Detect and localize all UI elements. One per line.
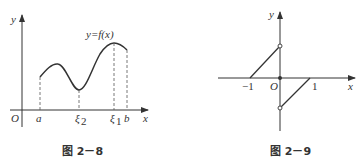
origin-label: O (270, 80, 278, 92)
x-axis-label: x (142, 112, 148, 124)
x-axis-label: x (347, 80, 353, 92)
tick-a: a (36, 112, 42, 124)
y-axis-label: y (268, 8, 274, 20)
open-point-upper (278, 44, 282, 48)
segment-left (250, 46, 280, 78)
tick-xi2-sub: 2 (81, 115, 87, 127)
tick-neg1: −1 (242, 80, 254, 92)
caption-2-9: 图 2－9 (270, 142, 311, 158)
dashed-guides (40, 43, 127, 110)
tick-b: b (124, 112, 130, 124)
origin-label: O (11, 112, 19, 124)
tick-1: 1 (312, 80, 318, 92)
y-axis-label: y (10, 13, 16, 25)
curve-label: y=f(x) (85, 28, 114, 41)
filled-point-origin (278, 76, 282, 80)
tick-xi1: ξ (110, 112, 115, 125)
open-point-lower (278, 106, 282, 110)
caption-2-8: 图 2－8 (62, 142, 103, 158)
figure-2-8: y x O y=f(x) a ξ 2 ξ 1 b (10, 13, 148, 127)
tick-xi2: ξ (75, 112, 80, 125)
tick-xi1-sub: 1 (116, 115, 122, 127)
figure-2-9: y x O −1 1 (218, 8, 355, 131)
segment-right (280, 78, 310, 108)
